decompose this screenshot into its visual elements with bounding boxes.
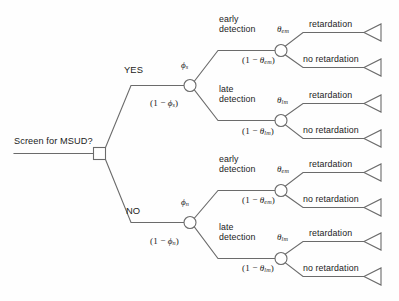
prob-phi-s: ϕs: [181, 60, 188, 73]
one-minus-prefix: (1 −: [150, 98, 168, 108]
terminal-node-4: [364, 130, 381, 147]
one-minus-suffix-te1: ): [272, 55, 275, 65]
detection-label-no-late: late detection: [219, 222, 256, 243]
phi-s-subscript: s: [186, 63, 189, 70]
terminal-node-3: [364, 95, 381, 112]
terminal-label-6: no retardation: [303, 194, 359, 204]
edge-terminal-1: [286, 33, 365, 47]
edge-no: [106, 160, 185, 223]
prob-one-minus-theta-em-1: (1 − θem): [242, 55, 275, 68]
prob-theta-em-2: θem: [277, 164, 289, 177]
terminal-label-2: no retardation: [303, 54, 359, 64]
branch-label-no: NO: [126, 206, 140, 216]
terminal-node-2: [364, 59, 381, 76]
one-minus-prefix-te1: (1 −: [242, 55, 260, 65]
theta-em-subscript-2b: em: [264, 198, 271, 205]
prob-one-minus-phi-n: (1 − ϕn): [150, 236, 179, 249]
prob-theta-em-1: θem: [277, 24, 289, 37]
tree-canvas: [0, 0, 399, 301]
terminal-label-5: retardation: [309, 159, 352, 169]
prob-theta-lm-2: θlm: [277, 232, 288, 245]
one-minus-prefix-te2: (1 −: [242, 195, 260, 205]
prob-theta-lm-1: θlm: [277, 95, 288, 108]
one-minus-prefix-n: (1 −: [150, 236, 168, 246]
branch-label-yes: YES: [124, 65, 143, 75]
one-minus-suffix-tl2: ): [271, 263, 274, 273]
terminal-node-6: [364, 199, 381, 216]
prob-one-minus-theta-em-2: (1 − θem): [242, 195, 275, 208]
terminal-node-5: [364, 164, 381, 181]
one-minus-prefix-tl2: (1 −: [242, 263, 260, 273]
terminal-node-8: [364, 268, 381, 285]
terminal-label-7: retardation: [309, 228, 352, 238]
terminal-label-8: no retardation: [303, 263, 359, 273]
one-minus-suffix: ): [175, 98, 178, 108]
root-label: Screen for MSUD?: [14, 136, 93, 146]
edge-yes: [106, 86, 185, 148]
prob-one-minus-phi-s: (1 − ϕs): [150, 98, 178, 111]
theta-em-subscript-2: em: [282, 167, 289, 174]
terminal-label-1: retardation: [309, 19, 352, 29]
terminal-label-4: no retardation: [303, 125, 359, 135]
theta-em-subscript-1b: em: [264, 58, 271, 65]
decision-tree-figure: Screen for MSUD? YES NO ϕs (1 − ϕs) ϕn (…: [0, 0, 399, 301]
terminal-node-7: [364, 233, 381, 250]
prob-one-minus-theta-lm-1: (1 − θlm): [242, 126, 274, 139]
prob-one-minus-theta-lm-2: (1 − θlm): [242, 263, 274, 276]
decision-node-square: [94, 148, 106, 160]
one-minus-suffix-te2: ): [272, 195, 275, 205]
terminal-label-3: retardation: [309, 90, 352, 100]
terminal-node-1: [364, 24, 381, 41]
theta-lm-subscript-2: lm: [282, 235, 288, 242]
edge-terminal-3: [286, 104, 365, 117]
phi-n-subscript: n: [186, 200, 189, 207]
prob-phi-n: ϕn: [181, 197, 189, 210]
detection-label-yes-early: early detection: [219, 14, 256, 35]
one-minus-suffix-tl1: ): [271, 126, 274, 136]
theta-lm-subscript-1: lm: [282, 98, 288, 105]
detection-label-no-early: early detection: [219, 154, 256, 175]
detection-label-yes-late: late detection: [219, 84, 256, 105]
edge-terminal-7: [286, 242, 365, 255]
one-minus-prefix-tl1: (1 −: [242, 126, 260, 136]
edge-terminal-5: [286, 173, 365, 187]
one-minus-suffix-n: ): [176, 236, 179, 246]
theta-em-subscript-1: em: [282, 27, 289, 34]
